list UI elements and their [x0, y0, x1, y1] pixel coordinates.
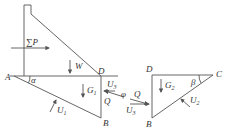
u3-left-label: U3 — [107, 79, 117, 90]
u3-right-label: U3 — [126, 105, 136, 116]
point-a-label: A — [4, 72, 11, 82]
u2-arrow — [181, 99, 190, 107]
u1-arrow — [50, 100, 56, 112]
angle-phi-label: φ — [121, 89, 126, 99]
point-d2-label: D — [145, 64, 153, 74]
u1-label: U1 — [57, 105, 67, 116]
q-right-arrow — [130, 99, 148, 104]
g2-label: G2 — [165, 80, 175, 91]
u2-label: U2 — [190, 95, 200, 106]
g1-label: G1 — [87, 85, 97, 96]
dam-stability-diagram: ∑P W A D B α G1 U1 U3 Q φ Q U3 D C B β G… — [0, 0, 232, 133]
point-d-label: D — [97, 66, 105, 76]
angle-beta-label: β — [190, 77, 196, 87]
point-c-label: C — [216, 69, 223, 79]
point-b-label: B — [103, 118, 109, 128]
q-left-label: Q — [104, 96, 111, 106]
water-pressure-label: ∑P — [26, 37, 38, 47]
angle-alpha-label: α — [31, 75, 36, 85]
q-right-label: Q — [134, 89, 141, 99]
point-b2-label: B — [146, 119, 152, 129]
weight-label: W — [75, 61, 84, 71]
